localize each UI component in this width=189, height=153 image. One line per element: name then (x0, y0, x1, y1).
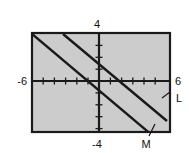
y-axis-max-label: 4 (94, 18, 100, 30)
x-axis-max-label: 6 (175, 75, 181, 87)
coordinate-plane-svg: 4 -4 -6 6 L M (0, 0, 189, 153)
x-axis-min-label: -6 (17, 75, 27, 87)
graph-figure: 4 -4 -6 6 L M (0, 0, 189, 153)
line-m-label: M (141, 138, 150, 150)
y-axis-min-label: -4 (92, 138, 102, 150)
line-l-label: L (176, 92, 182, 104)
